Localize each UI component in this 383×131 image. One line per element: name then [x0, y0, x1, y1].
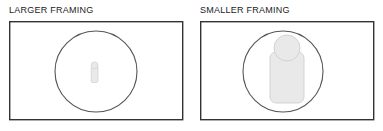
- person-head-shape: [91, 62, 98, 69]
- larger-framing-illustration: [0, 0, 191, 131]
- person-head-shape: [274, 35, 300, 61]
- person-silhouette-icon: [270, 35, 304, 103]
- panel-smaller-framing: SMALLER FRAMING: [191, 0, 383, 131]
- smaller-framing-illustration: [191, 0, 383, 131]
- panel-larger-framing: LARGER FRAMING: [0, 0, 191, 131]
- framing-comparison-figure: LARGER FRAMING SMALLER FRAMING: [0, 0, 383, 131]
- person-silhouette-icon: [91, 62, 98, 83]
